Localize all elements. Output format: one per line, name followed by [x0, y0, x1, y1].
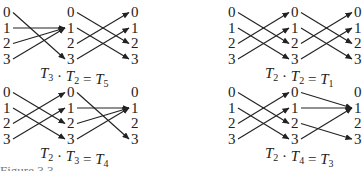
- node-label-col1-2: 2: [67, 115, 75, 131]
- node-label-col2-1: 1: [354, 20, 362, 36]
- node-label-col1-0: 0: [291, 4, 299, 20]
- node-label-col2-0: 0: [131, 4, 139, 20]
- node-label-col0-1: 1: [3, 20, 11, 36]
- node-label-col1-0: 0: [67, 84, 75, 100]
- node-label-col0-3: 3: [228, 131, 236, 147]
- figure-caption-fragment: Figure 3.3: [0, 164, 53, 171]
- equation-bottom-right: T2 · T4 = T3: [265, 145, 334, 169]
- node-label-col1-1: 1: [67, 20, 75, 36]
- node-label-col1-0: 0: [291, 84, 299, 100]
- node-label-col0-0: 0: [228, 84, 236, 100]
- node-label-col1-1: 1: [291, 20, 299, 36]
- node-label-col0-0: 0: [228, 4, 236, 20]
- node-label-col0-0: 0: [3, 84, 11, 100]
- equation-top-right: T2 · T2 = T1: [265, 65, 334, 89]
- node-label-col0-3: 3: [228, 51, 236, 67]
- node-label-col2-1: 1: [354, 100, 362, 116]
- node-label-col2-3: 3: [131, 131, 139, 147]
- node-label-col2-1: 1: [131, 20, 139, 36]
- first-map-arrow-2-to-1: [13, 28, 65, 44]
- node-label-col1-2: 2: [291, 115, 299, 131]
- second-map-arrow-3-to-1: [301, 108, 352, 139]
- node-label-col0-2: 2: [3, 115, 11, 131]
- node-label-col0-2: 2: [228, 115, 236, 131]
- node-label-col1-3: 3: [291, 131, 299, 147]
- second-map-arrow-2-to-3: [301, 124, 352, 140]
- node-label-col0-2: 2: [3, 35, 11, 51]
- node-label-col2-3: 3: [354, 51, 362, 67]
- panel-top-right: 012301230123T2 · T2 = T1: [228, 4, 362, 89]
- node-label-col2-3: 3: [131, 51, 139, 67]
- panel-bottom-left: 012301230123T2 · T3 = T4: [3, 84, 139, 169]
- node-label-col0-3: 3: [3, 51, 11, 67]
- node-label-col2-3: 3: [354, 131, 362, 147]
- node-label-col1-2: 2: [291, 35, 299, 51]
- node-label-col2-0: 0: [354, 4, 362, 20]
- node-label-col1-3: 3: [67, 131, 75, 147]
- node-label-col1-1: 1: [291, 100, 299, 116]
- composition-diagram: 012301230123T3 · T2 = T5012301230123T2 ·…: [0, 0, 364, 171]
- second-map-arrow-2-to-1: [77, 108, 129, 124]
- second-map-arrow-3-to-1: [77, 108, 129, 139]
- panel-bottom-right: 012301230123T2 · T4 = T3: [228, 84, 362, 169]
- node-label-col0-2: 2: [228, 35, 236, 51]
- node-label-col2-1: 1: [131, 100, 139, 116]
- node-label-col0-0: 0: [3, 4, 11, 20]
- node-label-col2-0: 0: [354, 84, 362, 100]
- node-label-col1-3: 3: [291, 51, 299, 67]
- node-label-col0-3: 3: [3, 131, 11, 147]
- node-label-col0-1: 1: [228, 20, 236, 36]
- node-label-col1-3: 3: [67, 51, 75, 67]
- node-label-col0-1: 1: [228, 100, 236, 116]
- node-label-col2-2: 2: [131, 115, 139, 131]
- panel-top-left: 012301230123T3 · T2 = T5: [3, 4, 139, 89]
- node-label-col1-2: 2: [67, 35, 75, 51]
- node-label-col2-2: 2: [131, 35, 139, 51]
- node-label-col1-1: 1: [67, 100, 75, 116]
- node-label-col2-2: 2: [354, 115, 362, 131]
- first-map-arrow-3-to-1: [13, 28, 65, 59]
- node-label-col1-0: 0: [67, 4, 75, 20]
- node-label-col0-1: 1: [3, 100, 11, 116]
- second-map-arrow-0-to-1: [301, 93, 352, 109]
- node-label-col2-2: 2: [354, 35, 362, 51]
- node-label-col2-0: 0: [131, 84, 139, 100]
